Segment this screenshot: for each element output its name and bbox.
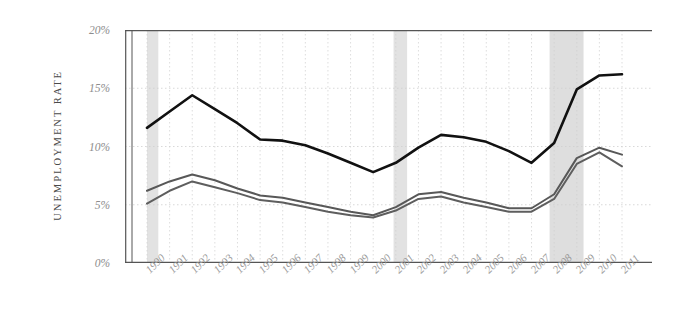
y-tick-label: 0% xyxy=(68,257,110,269)
y-tick-label: 15% xyxy=(68,82,110,94)
y-tick-label: 20% xyxy=(68,24,110,36)
x-axis-tick-labels: 1990199119921993199419951996199719981999… xyxy=(125,263,652,325)
plot-svg xyxy=(125,30,652,263)
y-axis-title: UNEMPLOYMENT RATE xyxy=(46,20,68,270)
recession-1990 xyxy=(147,30,158,263)
y-tick-label: 5% xyxy=(68,199,110,211)
y-tick-label: 10% xyxy=(68,141,110,153)
unemployment-rate-chart: UNEMPLOYMENT RATE 0%5%10%15%20% 19901991… xyxy=(0,0,676,325)
y-axis-title-text: UNEMPLOYMENT RATE xyxy=(52,70,63,221)
plot-area xyxy=(125,30,652,263)
y-axis-tick-labels: 0%5%10%15%20% xyxy=(68,0,110,325)
